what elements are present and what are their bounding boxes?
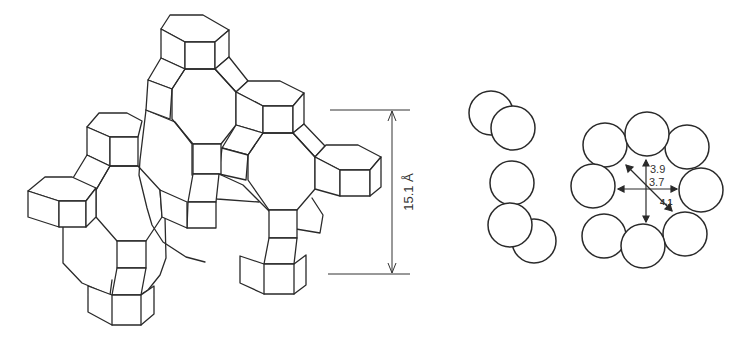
sphere: [621, 224, 665, 268]
four-ring: [117, 241, 146, 268]
aperture-arrows: [618, 160, 677, 222]
four-ring: [269, 210, 297, 238]
hex-prism-far-left: [28, 177, 96, 227]
ring-label-4-1: 4.1: [660, 197, 673, 207]
sphere: [491, 106, 535, 150]
sphere: [582, 214, 626, 258]
sphere: [625, 112, 669, 156]
four-ring: [112, 268, 146, 295]
four-ring-center: [193, 144, 221, 174]
dimension-label: 15.1 Å: [401, 173, 416, 211]
hex-prism-top: [161, 15, 229, 69]
hex-prism-upper-right: [236, 81, 304, 133]
four-ring-center: [187, 202, 216, 228]
side-view-spheres: [469, 91, 556, 263]
sphere: [490, 161, 534, 205]
ring-label-3-7: 3.7: [649, 176, 664, 188]
sphere: [679, 168, 723, 212]
octagon-ring-left: [96, 166, 162, 241]
zeolite-framework: [28, 15, 381, 325]
four-ring-center: [188, 174, 219, 202]
sphere: [663, 212, 707, 256]
figure-canvas: 15.1 Å 3.9 3.7 4.1: [0, 0, 755, 339]
sphere: [665, 125, 709, 169]
sphere: [488, 203, 532, 247]
sphere: [583, 123, 627, 167]
ring-view-spheres: 3.9 3.7 4.1: [571, 112, 723, 268]
sphere: [571, 164, 615, 208]
cage-outline-lower-left: [63, 227, 112, 295]
four-ring: [264, 238, 297, 264]
hex-prism-far-right: [315, 145, 381, 196]
four-ring: [160, 190, 187, 228]
hex-prism-left-upper: [87, 113, 142, 166]
ring-label-3-9: 3.9: [650, 163, 665, 175]
